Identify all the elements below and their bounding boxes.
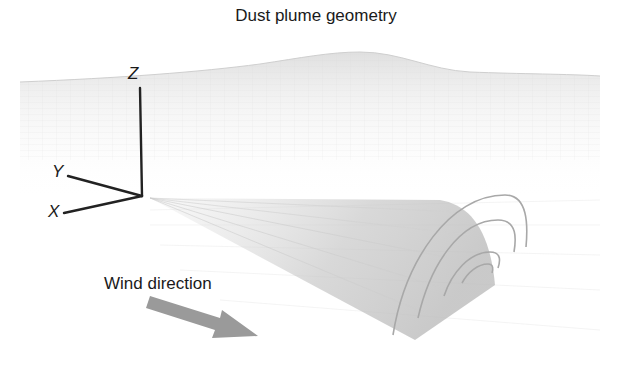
wind-direction-arrow-icon — [146, 296, 258, 338]
terrain-surface — [20, 52, 600, 200]
z-axis-label: Z — [128, 64, 138, 84]
plume-scene — [0, 0, 632, 379]
wind-direction-label: Wind direction — [104, 274, 212, 294]
x-axis-label: X — [48, 202, 59, 222]
y-axis-label: Y — [52, 162, 63, 182]
